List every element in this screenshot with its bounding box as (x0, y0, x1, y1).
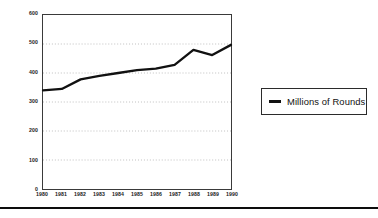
y-axis-tick-label: 600 (16, 11, 38, 16)
y-axis-tick-label: 400 (16, 70, 38, 75)
y-axis-tick-label: 100 (16, 158, 38, 163)
page-horizontal-rule (0, 207, 378, 209)
data-series-line (43, 15, 231, 189)
legend-entry-label: Millions of Rounds (287, 96, 365, 107)
x-axis-tick-label: 1990 (221, 192, 243, 197)
y-axis-tick-label: 500 (16, 41, 38, 46)
plot-area (42, 14, 232, 190)
legend-line-swatch-icon (269, 100, 281, 103)
chart-figure: 0100200300400500600 19801981198219831984… (0, 0, 378, 218)
chart-legend: Millions of Rounds (261, 88, 367, 115)
series-line-millions-of-rounds (43, 45, 231, 91)
y-axis-tick-label: 200 (16, 129, 38, 134)
y-axis-tick-label: 300 (16, 99, 38, 104)
